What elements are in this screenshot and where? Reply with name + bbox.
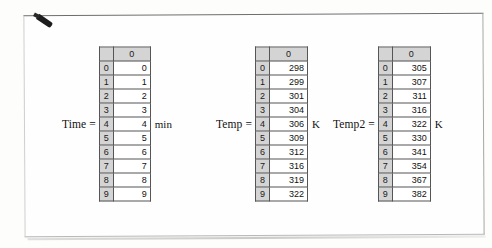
table-row[interactable]: 6 341 [378, 145, 430, 159]
cell-value[interactable]: 6 [113, 145, 150, 159]
table-row[interactable]: 3 3 [99, 103, 150, 117]
matrix-corner-cell [255, 47, 269, 61]
worksheet-expressions: Time = 0 0 0 1 1 2 2 3 3 [0, 0, 492, 248]
row-index: 7 [378, 159, 392, 173]
cell-value[interactable]: 312 [269, 145, 307, 159]
cell-value[interactable]: 3 [113, 103, 150, 117]
table-row[interactable]: 8 319 [255, 173, 307, 187]
row-index: 3 [99, 103, 113, 117]
table-row[interactable]: 6 312 [255, 145, 307, 159]
table-row[interactable]: 2 301 [255, 89, 307, 103]
cell-value[interactable]: 298 [269, 61, 307, 75]
row-index: 7 [255, 159, 269, 173]
table-row[interactable]: 3 316 [378, 103, 430, 117]
table-row[interactable]: 5 309 [255, 131, 307, 145]
row-index: 8 [378, 173, 392, 187]
row-index: 5 [99, 131, 113, 145]
table-row[interactable]: 7 354 [378, 159, 430, 173]
cell-value[interactable]: 4 [113, 117, 150, 131]
row-index: 6 [255, 145, 269, 159]
cell-value[interactable]: 316 [392, 103, 430, 117]
cell-value[interactable]: 354 [392, 159, 430, 173]
cell-value[interactable]: 319 [269, 173, 307, 187]
cell-value[interactable]: 306 [269, 117, 307, 131]
row-index: 8 [99, 173, 113, 187]
table-row[interactable]: 8 8 [99, 173, 150, 187]
matrix-corner-cell [99, 47, 113, 61]
table-row[interactable]: 9 382 [378, 187, 430, 201]
row-index: 3 [255, 103, 269, 117]
table-row[interactable]: 9 322 [255, 187, 307, 201]
table-row[interactable]: 0 0 [99, 61, 150, 75]
variable-name-time: Time [62, 118, 89, 130]
cell-value[interactable]: 5 [113, 131, 150, 145]
table-row[interactable]: 1 299 [255, 75, 307, 89]
cell-value[interactable]: 311 [392, 89, 430, 103]
matrix-table-time[interactable]: 0 0 0 1 1 2 2 3 3 4 4 5 [99, 47, 151, 202]
cell-value[interactable]: 0 [113, 61, 150, 75]
cell-value[interactable]: 301 [269, 89, 307, 103]
cell-value[interactable]: 299 [269, 75, 307, 89]
cell-value[interactable]: 305 [392, 61, 430, 75]
table-row[interactable]: 0 305 [378, 61, 430, 75]
table-row[interactable]: 7 7 [99, 159, 150, 173]
cell-value[interactable]: 1 [113, 75, 150, 89]
cell-value[interactable]: 322 [392, 117, 430, 131]
row-index: 2 [255, 89, 269, 103]
table-row[interactable]: 1 1 [99, 75, 150, 89]
row-index: 1 [255, 75, 269, 89]
row-index: 0 [255, 61, 269, 75]
cell-value[interactable]: 9 [113, 187, 150, 201]
table-row[interactable]: 8 367 [378, 173, 430, 187]
matrix-header-row: 0 [99, 47, 150, 61]
table-row[interactable]: 4 322 [378, 117, 430, 131]
matrix-column-header: 0 [392, 47, 430, 61]
row-index: 0 [378, 61, 392, 75]
cell-value[interactable]: 341 [392, 145, 430, 159]
cell-value[interactable]: 304 [269, 103, 307, 117]
row-index: 4 [255, 117, 269, 131]
table-row[interactable]: 2 311 [378, 89, 430, 103]
row-index: 3 [378, 103, 392, 117]
table-row[interactable]: 5 5 [99, 131, 150, 145]
expression-temp: Temp = 0 0 298 1 299 2 301 3 304 [216, 47, 320, 202]
equals-sign-time: = [89, 118, 99, 130]
table-row[interactable]: 2 2 [99, 89, 150, 103]
row-index: 8 [255, 173, 269, 187]
matrix-table-temp2[interactable]: 0 0 305 1 307 2 311 3 316 4 322 [378, 47, 431, 202]
row-index: 6 [378, 145, 392, 159]
table-row[interactable]: 9 9 [99, 187, 150, 201]
table-row[interactable]: 7 316 [255, 159, 307, 173]
cell-value[interactable]: 7 [113, 159, 150, 173]
cell-value[interactable]: 316 [269, 159, 307, 173]
row-index: 0 [99, 61, 113, 75]
table-row[interactable]: 1 307 [378, 75, 430, 89]
variable-name-temp: Temp [216, 118, 245, 130]
table-row[interactable]: 6 6 [99, 145, 150, 159]
row-index: 2 [99, 89, 113, 103]
cell-value[interactable]: 8 [113, 173, 150, 187]
cell-value[interactable]: 309 [269, 131, 307, 145]
variable-name-temp2: Temp2 [333, 118, 368, 130]
table-row[interactable]: 3 304 [255, 103, 307, 117]
row-index: 5 [255, 131, 269, 145]
expression-temp2: Temp2 = 0 0 305 1 307 2 311 3 316 [333, 47, 443, 202]
cell-value[interactable]: 307 [392, 75, 430, 89]
cell-value[interactable]: 2 [113, 89, 150, 103]
matrix-table-temp[interactable]: 0 0 298 1 299 2 301 3 304 4 306 [255, 47, 308, 202]
row-index: 9 [255, 187, 269, 201]
table-row[interactable]: 0 298 [255, 61, 307, 75]
matrix-column-header: 0 [269, 47, 307, 61]
table-row[interactable]: 5 330 [378, 131, 430, 145]
table-row[interactable]: 4 4 [99, 117, 150, 131]
row-index: 1 [99, 75, 113, 89]
row-index: 6 [99, 145, 113, 159]
expression-time: Time = 0 0 0 1 1 2 2 3 3 [62, 47, 172, 202]
cell-value[interactable]: 322 [269, 187, 307, 201]
table-row[interactable]: 4 306 [255, 117, 307, 131]
cell-value[interactable]: 382 [392, 187, 430, 201]
row-index: 7 [99, 159, 113, 173]
row-index: 5 [378, 131, 392, 145]
cell-value[interactable]: 330 [392, 131, 430, 145]
cell-value[interactable]: 367 [392, 173, 430, 187]
